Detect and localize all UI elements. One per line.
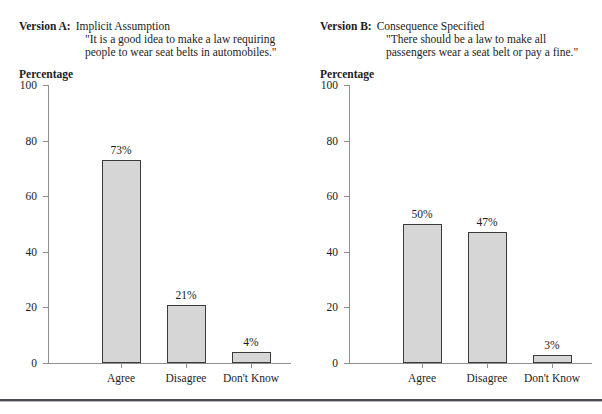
quote-line-1: "There should be a law to make all (386, 33, 592, 46)
y-axis-line (48, 85, 49, 364)
bar-value-label: 73% (110, 144, 131, 156)
bottom-divider (0, 399, 602, 401)
bar-disagree[interactable] (167, 305, 206, 363)
y-axis-tick (43, 141, 49, 142)
version-name: Implicit Assumption (76, 20, 170, 32)
bar-agree[interactable] (102, 160, 141, 363)
bar-don-t-know[interactable] (533, 355, 572, 363)
version-label: Version A: (19, 20, 71, 32)
y-axis-tick (43, 363, 49, 364)
y-axis-line (349, 85, 350, 364)
y-axis-tick-label: 40 (0, 247, 37, 259)
x-axis-tick (552, 363, 553, 368)
panel-version-a: Version A: Implicit Assumption "It is a … (0, 0, 301, 396)
y-axis-tick (43, 196, 49, 197)
x-axis-line (349, 363, 592, 364)
x-axis-category-label: Disagree (166, 372, 207, 384)
y-axis-tick-label: 100 (0, 80, 37, 92)
version-heading-row: Version B: Consequence Specified (320, 20, 592, 32)
bar-don-t-know[interactable] (232, 352, 271, 363)
y-axis-tick (344, 141, 350, 142)
bar-value-label: 4% (243, 336, 258, 348)
bar-agree[interactable] (403, 224, 442, 363)
y-axis-tick (43, 307, 49, 308)
x-axis-category-label: Agree (408, 372, 436, 384)
header-version-b: Version B: Consequence Specified "There … (320, 20, 592, 59)
bar-chart-version-b: 020406080100 AgreeDisagreeDon't Know 50%… (301, 85, 602, 365)
y-axis-tick (43, 252, 49, 253)
x-axis-line (48, 363, 291, 364)
bar-value-label: 50% (411, 208, 432, 220)
y-axis-tick-label: 80 (0, 136, 37, 148)
quote-line-2: passengers wear a seat belt or pay a fin… (386, 46, 592, 59)
bar-value-label: 21% (175, 289, 196, 301)
y-axis-tick-label: 20 (298, 302, 338, 314)
y-axis-tick-label: 60 (0, 191, 37, 203)
x-axis-category-label: Agree (107, 372, 135, 384)
bar-value-label: 47% (476, 216, 497, 228)
header-version-a: Version A: Implicit Assumption "It is a … (19, 20, 291, 59)
x-axis-category-label: Don't Know (524, 372, 580, 384)
bar-value-label: 3% (544, 339, 559, 351)
bar-chart-version-a: 020406080100 AgreeDisagreeDon't Know 73%… (0, 85, 301, 365)
x-axis-tick (422, 363, 423, 368)
y-axis-tick (344, 196, 350, 197)
y-axis-tick-label: 40 (298, 247, 338, 259)
y-axis-tick-label: 80 (298, 136, 338, 148)
x-axis-category-label: Disagree (467, 372, 508, 384)
y-axis-tick (344, 307, 350, 308)
version-name: Consequence Specified (377, 20, 485, 32)
y-axis-tick (43, 85, 49, 86)
y-axis-tick (344, 363, 350, 364)
x-axis-tick (251, 363, 252, 368)
y-axis-tick (344, 85, 350, 86)
bar-disagree[interactable] (468, 232, 507, 363)
y-axis-tick-label: 60 (298, 191, 338, 203)
x-axis-tick (186, 363, 187, 368)
y-axis-tick-label: 100 (298, 80, 338, 92)
quote-line-1: "It is a good idea to make a law requiri… (85, 33, 291, 46)
quote-line-2: people to wear seat belts in automobiles… (85, 46, 291, 59)
y-axis-tick (344, 252, 350, 253)
x-axis-category-label: Don't Know (223, 372, 279, 384)
y-axis-tick-label: 20 (0, 302, 37, 314)
y-axis-tick-label: 0 (298, 358, 338, 370)
x-axis-tick (121, 363, 122, 368)
x-axis-tick (487, 363, 488, 368)
version-label: Version B: (320, 20, 372, 32)
panel-version-b: Version B: Consequence Specified "There … (301, 0, 602, 396)
y-axis-tick-label: 0 (0, 358, 37, 370)
version-heading-row: Version A: Implicit Assumption (19, 20, 291, 32)
